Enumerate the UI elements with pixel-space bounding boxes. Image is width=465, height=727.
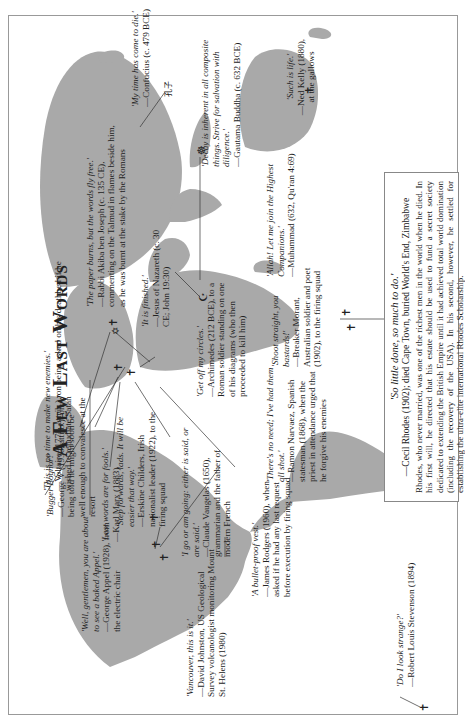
confucius-glyph-icon: 孔子 — [162, 81, 173, 97]
cross-icon: ✝ — [345, 323, 358, 332]
quote-confucius: 'My time has come to die.' —Confucius (c… — [130, 7, 151, 107]
quote-childers: 'Step forwards, lads. It will be easier … — [115, 407, 168, 527]
cross-icon: ✝ — [303, 86, 316, 95]
quote-attribution: —Robert Louis Stevenson (1894) — [406, 527, 417, 687]
dharma-wheel-icon: ☸ — [195, 145, 208, 155]
cross-icon: ✝ — [158, 553, 171, 562]
quote-attribution: —Ned Kelly (1880), at the gallows — [296, 37, 317, 117]
quote-narvaez: 'There's no need; I've had them all shot… — [265, 362, 329, 482]
quote-akiba: 'The paper burns, but the words fly free… — [85, 117, 127, 307]
quote-text: 'Step forwards, lads. It will be easier … — [115, 407, 136, 527]
quote-text: 'Allah! Let me join the Highest Companio… — [265, 147, 286, 277]
quote-attribution: —Breaker Morant, Australian soldier and … — [291, 267, 323, 367]
cross-icon: ✝ — [107, 318, 120, 327]
quote-text: 'I go or am going: either is said, or ar… — [180, 427, 201, 557]
quote-text: 'The paper burns, but the words fly free… — [85, 117, 96, 307]
quote-text: 'My time has come to die.' — [130, 7, 141, 107]
quote-attribution: —Claude Vaugelas (1650), grammarian and … — [201, 427, 233, 557]
quote-text: 'Do I look strange?' — [395, 527, 406, 687]
quote-rodgers: 'A bullet-proof vest.' —James Rodgers (1… — [250, 477, 292, 597]
quote-text: 'A bullet-proof vest.' — [250, 477, 261, 597]
quote-attribution: —George V (1936, attrib.), on being told… — [56, 397, 98, 517]
quote-attribution: —David Johnston, US Geological Survey vo… — [196, 547, 228, 697]
quote-text: 'Bugger Bognor!' — [45, 397, 56, 517]
cross-icon: ✝ — [150, 540, 163, 549]
leader-stevenson — [400, 697, 420, 707]
quote-text: 'It is finished.' — [140, 217, 151, 327]
quote-attribution: —Erskine Childers, Irish nationalist lea… — [136, 407, 168, 527]
cross-icon: ✝ — [125, 368, 138, 377]
rhodes-attribution: —Cecil Rhodes (1902); died Cape Town, bu… — [401, 181, 411, 493]
cross-icon: ✝ — [418, 703, 431, 712]
quote-text: 'There's no need; I've had them all shot… — [265, 362, 286, 482]
cross-icon: ✝ — [112, 363, 125, 372]
rhodes-body: Rhodes, who never married, was one of th… — [414, 181, 465, 493]
quote-text: 'Shoot straight, you bastards!' — [270, 267, 291, 367]
quote-kelly: 'Such is life.' —Ned Kelly (1880), at th… — [285, 37, 317, 117]
quote-text: 'Well, gentlemen, you are about to see a… — [80, 512, 101, 632]
quote-attribution: —Jesus of Nazareth (c. 30 CE; John 19:30… — [151, 217, 172, 327]
crescent-icon: ☪ — [197, 292, 210, 302]
quote-jesus: 'It is finished.' —Jesus of Nazareth (c.… — [140, 217, 172, 327]
rhodes-box: 'So little done, so much to do.' —Cecil … — [384, 172, 459, 502]
cross-icon: ✝ — [148, 513, 161, 522]
quote-morant: 'Shoot straight, you bastards!' —Breaker… — [270, 267, 323, 367]
quote-attribution: —Muhammad (632, Qu'ran 4:69) — [286, 147, 297, 277]
rhodes-quote: 'So little done, so much to do.' — [389, 181, 400, 493]
quote-attribution: —Archimedes (212 BCE), to a Roman soldie… — [206, 277, 248, 397]
quote-attribution: —James Rodgers (1960), when asked if he … — [261, 477, 293, 597]
quote-vaugelas: 'I go or am going: either is said, or ar… — [180, 427, 233, 557]
quote-attribution: —George Appel (1928), from the electric … — [101, 512, 122, 632]
rotated-page: A Few Last Words 'This is no time to mak… — [0, 0, 465, 727]
quote-attribution: —Rabbi Akiba ben Joseph (c. 135 CE), com… — [96, 117, 128, 307]
quote-muhammad: 'Allah! Let me join the Highest Companio… — [265, 147, 297, 277]
quote-george-v: 'Bugger Bognor!' —George V (1936, attrib… — [45, 397, 98, 517]
cross-icon: ✝ — [340, 308, 353, 317]
quote-text: 'Vancouver, this is it.' — [185, 547, 196, 697]
quote-appel: 'Well, gentlemen, you are about to see a… — [80, 512, 122, 632]
quote-stevenson: 'Do I look strange?' —Robert Louis Steve… — [395, 527, 416, 687]
quote-text: 'Such is life.' — [285, 37, 296, 117]
quote-attribution: —Gautama Buddha (c. 632 BCE) — [232, 17, 243, 167]
quote-attribution: —Ramon Narvaez, Spanish statesman (1868)… — [286, 362, 328, 482]
quote-johnston: 'Vancouver, this is it.' —David Johnston… — [185, 547, 227, 697]
star-of-david-icon: ✡ — [110, 327, 121, 335]
quote-attribution: —Confucius (c. 479 BCE) — [141, 7, 152, 107]
